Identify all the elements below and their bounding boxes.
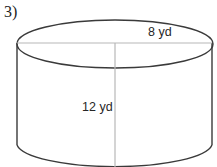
problem-number-label: 3) xyxy=(4,4,17,20)
height-measurement-label: 12 yd xyxy=(82,101,113,114)
diameter-measurement-label: 8 yd xyxy=(148,26,172,39)
cylinder-diagram xyxy=(0,0,217,167)
figure-canvas: 3) 8 yd 12 yd xyxy=(0,0,217,167)
